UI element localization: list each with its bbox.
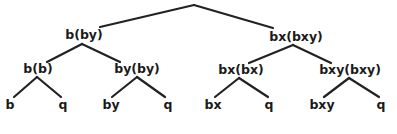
- leaf-b: b: [6, 97, 15, 112]
- leaf-q-1: q: [59, 97, 68, 112]
- node-bxy-bxy: bxy(bxy): [319, 62, 381, 77]
- node-b-b: b(b): [23, 61, 52, 76]
- leaf-q-3: q: [265, 97, 274, 112]
- leaf-by: by: [102, 97, 119, 112]
- edge-bx-bx-right: [239, 78, 268, 97]
- edge-bxy-bxy-left: [324, 78, 349, 97]
- edge-b-b-right: [37, 77, 61, 97]
- node-bx-bxy: bx(bxy): [269, 29, 323, 44]
- leaf-bx: bx: [204, 97, 221, 112]
- edge-by-by-right: [137, 77, 165, 97]
- node-bx-bx: bx(bx): [218, 62, 263, 77]
- node-by-by: by(by): [114, 61, 160, 76]
- edge-b-b-left: [14, 77, 37, 97]
- leaf-q-2: q: [164, 97, 173, 112]
- leaf-bxy: bxy: [309, 97, 334, 112]
- node-b-by: b(by): [65, 27, 102, 42]
- edge-bx-bxy-right: [293, 45, 331, 63]
- tree-diagram: b(by) bx(bxy) b(b) by(by) bx(bx) bxy(bxy…: [0, 0, 397, 134]
- edge-root-right: [194, 5, 273, 28]
- edge-b-by-left: [47, 44, 82, 62]
- edge-bxy-bxy-right: [349, 78, 379, 97]
- edge-bx-bxy-left: [249, 45, 293, 63]
- leaf-q-4: q: [377, 97, 386, 112]
- edge-b-by-right: [82, 44, 120, 62]
- edge-root-left: [100, 5, 194, 27]
- edge-by-by-left: [112, 77, 137, 97]
- edge-bx-bx-left: [215, 78, 239, 97]
